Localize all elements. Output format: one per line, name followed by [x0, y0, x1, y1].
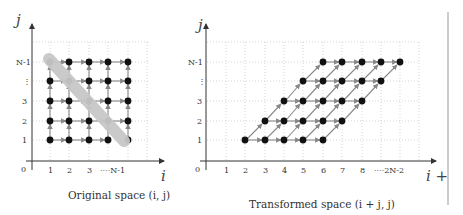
right-x-tick: 2 — [243, 166, 248, 175]
right-x-tick: 4 — [282, 166, 287, 175]
left-x-tick: ····N-1 — [100, 166, 125, 175]
left-x-tick: 1 — [48, 166, 53, 175]
right-y-tick: N-1 — [188, 58, 203, 67]
left-axes — [26, 24, 164, 170]
right-y-tick: 1 — [197, 136, 202, 145]
right-x-tick: 1 — [224, 166, 229, 175]
right-y-axis-label: j — [195, 16, 203, 34]
right-origin-label: 0 — [195, 165, 200, 174]
left-caption: Original space (i, j) — [68, 189, 170, 201]
original-space-panel: j i 0 1 2 3 ····N-1 1 2 3 ⋮ N-1 Original… — [13, 11, 170, 201]
left-origin-label: 0 — [21, 165, 26, 174]
skewing-diagram: j i 0 1 2 3 ····N-1 1 2 3 ⋮ N-1 Original… — [0, 0, 463, 215]
left-y-tick: ⋮ — [23, 77, 31, 86]
left-x-tick: 3 — [87, 166, 92, 175]
left-y-tick: 3 — [22, 97, 27, 106]
right-y-tick: 2 — [197, 117, 202, 126]
left-x-tick: 2 — [67, 166, 72, 175]
right-axes — [200, 24, 436, 170]
right-x-axis-label: i + — [426, 167, 448, 185]
right-x-tick: ····2N-2 — [374, 166, 404, 175]
anti-diagonal-wavefront — [49, 59, 124, 141]
left-y-tick: 1 — [22, 136, 27, 145]
right-x-tick: 5 — [301, 166, 306, 175]
left-y-tick: 2 — [22, 117, 27, 126]
right-x-tick: 6 — [321, 166, 326, 175]
right-x-tick: 3 — [263, 166, 268, 175]
left-y-tick: N-1 — [16, 58, 31, 67]
right-caption: Transformed space (i + j, j) — [249, 198, 395, 210]
right-x-tick: 7 — [340, 166, 345, 175]
left-y-axis-label: j — [13, 11, 21, 29]
left-x-axis-label: i — [161, 167, 166, 185]
right-iteration-points — [242, 59, 404, 144]
transformed-space-panel: j i + 0 1 2 3 4 5 6 7 8 ····2N-2 1 2 3 ⋮… — [188, 16, 448, 210]
right-x-tick: 8 — [360, 166, 365, 175]
right-y-tick: ⋮ — [198, 77, 206, 86]
right-y-tick: 3 — [197, 97, 202, 106]
